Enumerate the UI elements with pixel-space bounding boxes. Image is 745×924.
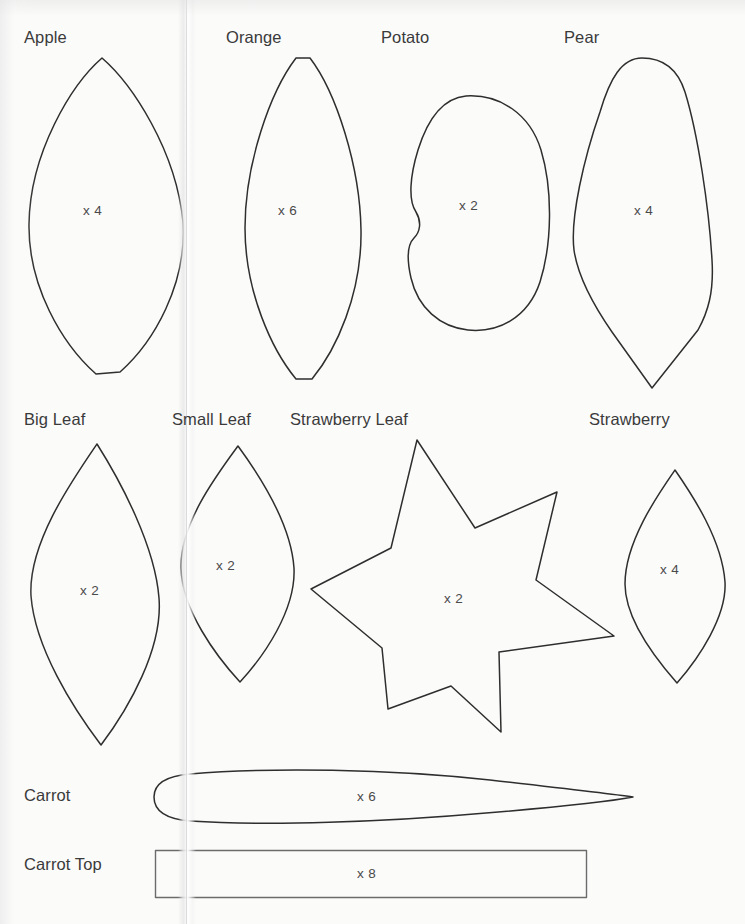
piece-quantity-pear: x 4	[634, 203, 653, 218]
piece-quantity-apple: x 4	[83, 203, 102, 218]
piece-quantity-carrot-top: x 8	[357, 866, 376, 881]
piece-outline-strawberry-leaf	[303, 436, 619, 736]
piece-quantity-small-leaf: x 2	[216, 558, 235, 573]
piece-label-strawberry-leaf: Strawberry Leaf	[290, 410, 408, 429]
piece-quantity-strawberry-leaf: x 2	[444, 591, 463, 606]
piece-label-orange: Orange	[226, 28, 282, 47]
piece-outline-pear	[566, 54, 722, 392]
piece-outline-potato	[404, 92, 554, 336]
piece-label-small-leaf: Small Leaf	[172, 410, 251, 429]
piece-label-strawberry: Strawberry	[589, 410, 670, 429]
piece-label-big-leaf: Big Leaf	[24, 410, 85, 429]
piece-label-pear: Pear	[564, 28, 599, 47]
piece-outline-strawberry	[619, 466, 731, 688]
pattern-sheet: Apple x 4 Orange x 6 Potato x 2 Pear x 4…	[0, 0, 745, 924]
piece-label-carrot: Carrot	[24, 786, 70, 805]
piece-label-carrot-top: Carrot Top	[24, 855, 102, 874]
piece-label-potato: Potato	[381, 28, 429, 47]
piece-quantity-strawberry: x 4	[660, 562, 679, 577]
piece-outline-small-leaf	[176, 442, 300, 686]
piece-quantity-big-leaf: x 2	[80, 583, 99, 598]
piece-outline-orange	[240, 54, 366, 384]
piece-label-apple: Apple	[24, 28, 67, 47]
piece-outline-carrot	[150, 766, 640, 828]
piece-quantity-carrot: x 6	[357, 789, 376, 804]
piece-outline-apple	[24, 54, 190, 380]
piece-quantity-potato: x 2	[459, 198, 478, 213]
piece-quantity-orange: x 6	[278, 203, 297, 218]
